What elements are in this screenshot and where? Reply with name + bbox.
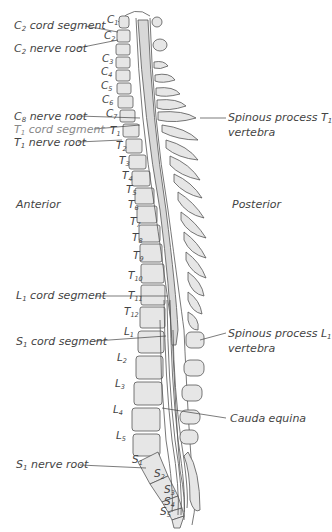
vertebra-label-t8: T8 bbox=[132, 232, 143, 246]
vertebra-label-c1: C1 bbox=[107, 14, 118, 28]
vertebra-label-l4: L4 bbox=[113, 404, 123, 418]
vertebra-label-s5: S5 bbox=[160, 506, 171, 520]
vertebra-label-t7: T7 bbox=[130, 216, 141, 230]
vertebra-label-t10: T10 bbox=[128, 270, 143, 284]
vertebra-label-c4: C4 bbox=[101, 66, 112, 80]
vertebra-label-l2: L2 bbox=[117, 352, 127, 366]
label-posterior: Posterior bbox=[232, 199, 281, 211]
vertebra-label-c6: C6 bbox=[102, 94, 113, 108]
label-anterior: Anterior bbox=[16, 199, 60, 211]
label-l1-cord-segment: L1 cord segment bbox=[16, 290, 106, 305]
label-c2-cord-segment: C2 cord segment bbox=[14, 20, 106, 35]
vertebra-label-c2: C2 bbox=[104, 30, 115, 44]
label-s1-nerve-root: S1 nerve root bbox=[16, 459, 88, 474]
vertebra-label-l3: L3 bbox=[115, 378, 125, 392]
vertebra-label-s2: S2 bbox=[154, 468, 165, 482]
vertebra-label-t6: T6 bbox=[128, 199, 139, 213]
vertebra-label-t9: T9 bbox=[133, 250, 144, 264]
label-spinous-process-l1: Spinous process L1 vertebra bbox=[228, 328, 332, 355]
label-t1-nerve-root: T1 nerve root bbox=[14, 137, 86, 152]
vertebra-label-l5: L5 bbox=[116, 430, 126, 444]
vertebra-label-t2: T2 bbox=[116, 140, 127, 154]
label-spinous-process-t1: Spinous process T1 vertebra bbox=[228, 112, 332, 139]
vertebra-label-t5: T5 bbox=[126, 184, 137, 198]
vertebra-label-s1: S1 bbox=[132, 454, 143, 468]
label-c2-nerve-root: C2 nerve root bbox=[14, 43, 87, 58]
label-cauda-equina: Cauda equina bbox=[230, 413, 306, 425]
vertebra-label-c7: C7 bbox=[106, 108, 117, 122]
vertebra-label-t1: T1 bbox=[110, 125, 121, 139]
vertebra-label-t4: T4 bbox=[122, 170, 133, 184]
vertebra-label-t3: T3 bbox=[119, 155, 130, 169]
vertebra-label-t12: T12 bbox=[124, 306, 139, 320]
vertebra-label-c5: C5 bbox=[101, 80, 112, 94]
vertebra-label-t11: T11 bbox=[128, 290, 143, 304]
label-s1-cord-segment: S1 cord segment bbox=[16, 336, 107, 351]
vertebra-label-l1: L1 bbox=[124, 326, 134, 340]
